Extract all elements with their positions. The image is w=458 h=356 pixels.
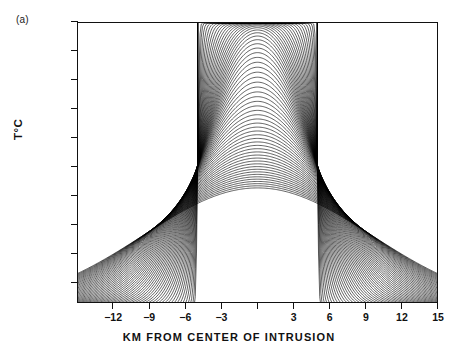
- x-tick-label: −9: [143, 311, 155, 323]
- y-tick-mark: [71, 79, 78, 80]
- x-tick-mark: [437, 303, 438, 309]
- y-tick-mark: [71, 282, 78, 283]
- figure-root: (a) T°C 587.5675762.5850937.510251112.51…: [0, 0, 458, 356]
- x-tick-label: −6: [179, 311, 191, 323]
- x-tick-label: −12: [104, 311, 122, 323]
- y-tick-mark: [71, 253, 78, 254]
- y-axis: 587.5675762.5850937.510251112.512001287.…: [0, 0, 458, 356]
- x-tick-label: 15: [432, 311, 444, 323]
- x-tick-label: 6: [327, 311, 333, 323]
- x-tick-label: −3: [215, 311, 227, 323]
- x-tick-mark: [221, 303, 222, 309]
- y-tick-mark: [71, 108, 78, 109]
- x-tick-mark: [365, 303, 366, 309]
- y-tick-mark: [71, 224, 78, 225]
- x-tick-label: 9: [363, 311, 369, 323]
- y-tick-mark: [71, 195, 78, 196]
- x-axis-title: KM FROM CENTER OF INTRUSION: [0, 331, 458, 343]
- y-tick-mark: [71, 50, 78, 51]
- x-tick-mark: [112, 303, 113, 309]
- x-tick-label: 12: [396, 311, 408, 323]
- y-tick-mark: [71, 21, 78, 22]
- y-tick-mark: [71, 137, 78, 138]
- x-tick-mark: [257, 303, 258, 309]
- x-tick-label: 3: [291, 311, 297, 323]
- x-tick-mark: [185, 303, 186, 309]
- x-tick-mark: [329, 303, 330, 309]
- x-tick-mark: [293, 303, 294, 309]
- x-tick-mark: [149, 303, 150, 309]
- y-tick-mark: [71, 166, 78, 167]
- x-tick-mark: [401, 303, 402, 309]
